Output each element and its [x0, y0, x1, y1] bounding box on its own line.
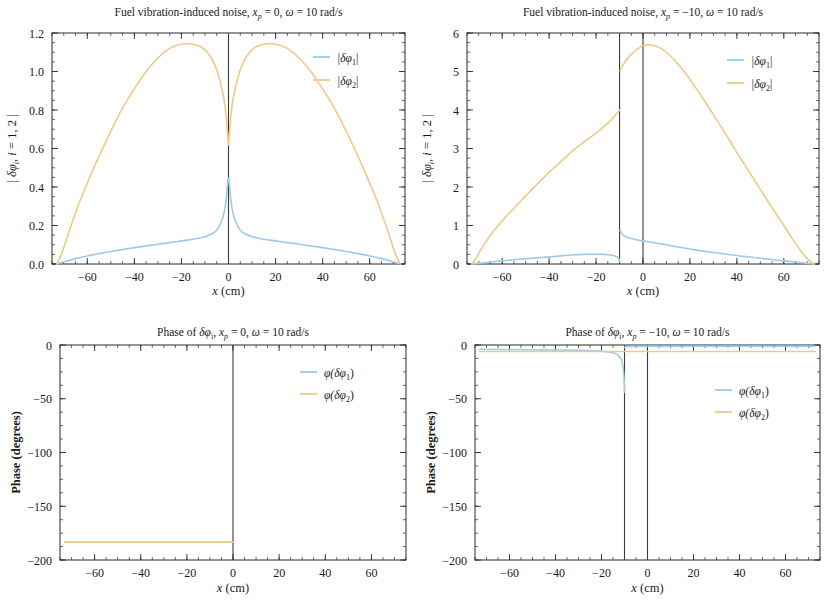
- y-tick-label: 1.0: [29, 65, 44, 79]
- y-tick-label: −200: [442, 554, 467, 568]
- y-tick-label: −150: [27, 500, 52, 514]
- y-axis-title: Phase (degrees): [424, 411, 438, 494]
- plot-top-right: Fuel vibration-induced noise, xp = −10, …: [415, 0, 829, 310]
- x-axis-title: x (cm): [626, 284, 659, 298]
- figure-grid: Fuel vibration-induced noise, xp = 0, ω …: [0, 0, 829, 614]
- x-axis-title: x (cm): [211, 284, 244, 298]
- x-tick-label: 60: [365, 566, 377, 580]
- x-axis-title: x (cm): [216, 581, 249, 595]
- x-tick-label: −40: [131, 566, 150, 580]
- panel-top-right: Fuel vibration-induced noise, xp = −10, …: [415, 0, 829, 310]
- y-tick-label: 0.4: [29, 181, 44, 195]
- x-tick-label: −20: [172, 270, 191, 284]
- y-axis-title: | δφi, i = 1, 2 |: [5, 114, 21, 182]
- x-tick-label: 0: [230, 566, 236, 580]
- x-tick-label: 20: [688, 566, 700, 580]
- y-tick-label: 0: [461, 339, 467, 353]
- y-tick-label: 0: [453, 258, 459, 272]
- x-tick-label: −40: [125, 270, 144, 284]
- y-tick-label: −150: [442, 500, 467, 514]
- x-tick-label: −20: [592, 566, 611, 580]
- y-tick-label: 4: [453, 104, 459, 118]
- y-tick-label: −200: [27, 554, 52, 568]
- x-tick-label: −40: [546, 566, 565, 580]
- y-tick-label: 1.2: [29, 27, 44, 41]
- x-tick-label: 20: [684, 270, 696, 284]
- y-axis-title: Phase (degrees): [9, 411, 23, 494]
- y-tick-label: 0.8: [29, 104, 44, 118]
- y-tick-label: 6: [453, 27, 459, 41]
- y-tick-label: 0.2: [29, 219, 44, 233]
- y-tick-label: 5: [453, 65, 459, 79]
- x-tick-label: −60: [500, 566, 519, 580]
- panel-top-left: Fuel vibration-induced noise, xp = 0, ω …: [0, 0, 415, 310]
- y-axis-title: | δφi, i = 1, 2 |: [420, 114, 436, 182]
- x-tick-label: 60: [780, 566, 792, 580]
- x-tick-label: 0: [645, 566, 651, 580]
- x-tick-label: −60: [493, 270, 512, 284]
- x-tick-label: 40: [319, 566, 331, 580]
- x-tick-label: −60: [85, 566, 104, 580]
- x-tick-label: 60: [778, 270, 790, 284]
- y-tick-label: 3: [453, 142, 459, 156]
- x-tick-label: 40: [734, 566, 746, 580]
- x-tick-label: −20: [177, 566, 196, 580]
- plot-top-left: Fuel vibration-induced noise, xp = 0, ω …: [0, 0, 415, 310]
- x-tick-label: 0: [226, 270, 232, 284]
- x-axis-title: x (cm): [630, 581, 663, 595]
- x-tick-label: −20: [587, 270, 606, 284]
- y-tick-label: −50: [448, 392, 467, 406]
- y-tick-label: 2: [453, 181, 459, 195]
- x-tick-label: 40: [731, 270, 743, 284]
- x-tick-label: 0: [640, 270, 646, 284]
- x-tick-label: 40: [317, 270, 329, 284]
- x-tick-label: −60: [78, 270, 97, 284]
- series-curve: [625, 346, 816, 347]
- y-tick-label: −50: [33, 392, 52, 406]
- plot-bottom-left: Phase of δφi, xp = 0, ω = 10 rad/s−60−40…: [0, 310, 415, 614]
- x-tick-label: 20: [270, 270, 282, 284]
- x-tick-label: 60: [364, 270, 376, 284]
- plot-bottom-right: Phase of δφi, xp = −10, ω = 10 rad/s−60−…: [415, 310, 829, 614]
- panel-bottom-left: Phase of δφi, xp = 0, ω = 10 rad/s−60−40…: [0, 310, 415, 614]
- y-tick-label: 0: [46, 339, 52, 353]
- y-tick-label: −100: [27, 446, 52, 460]
- y-tick-label: 0.6: [29, 142, 44, 156]
- y-tick-label: 1: [453, 219, 459, 233]
- x-tick-label: −40: [540, 270, 559, 284]
- x-tick-label: 20: [273, 566, 285, 580]
- y-tick-label: −100: [442, 446, 467, 460]
- y-tick-label: 0.0: [29, 258, 44, 272]
- panel-bottom-right: Phase of δφi, xp = −10, ω = 10 rad/s−60−…: [415, 310, 829, 614]
